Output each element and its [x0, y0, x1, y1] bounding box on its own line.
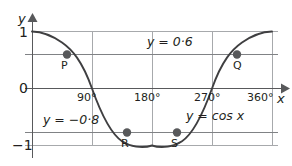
- y-tick-0: 0: [19, 81, 28, 95]
- point-label-Q: Q: [233, 60, 242, 71]
- cosine-graph-figure: y x 1 0 −1 90° 180° 270° 360° P Q R S y …: [0, 0, 292, 166]
- x-tick-90: 90°: [77, 92, 97, 103]
- x-axis-label: x: [277, 92, 285, 105]
- point-label-R: R: [121, 138, 129, 149]
- annotation-y-equals-minus-0-8: y = −0·8: [43, 114, 99, 127]
- point-label-S: S: [171, 138, 178, 149]
- point-S: [173, 128, 181, 136]
- x-tick-270: 270°: [194, 92, 221, 103]
- y-tick-1: 1: [19, 25, 28, 39]
- y-tick-minus1: −1: [12, 138, 33, 152]
- annotation-y-equals-0-6: y = 0·6: [147, 36, 193, 49]
- x-tick-360: 360°: [247, 92, 274, 103]
- point-label-P: P: [61, 60, 68, 71]
- x-tick-180: 180°: [134, 92, 161, 103]
- annotation-y-equals-cos-x: y = cos x: [186, 110, 244, 123]
- graph-canvas: [0, 0, 292, 166]
- point-R: [123, 128, 131, 136]
- point-P: [63, 50, 71, 58]
- point-Q: [233, 50, 241, 58]
- y-axis-arrowhead: [28, 13, 38, 22]
